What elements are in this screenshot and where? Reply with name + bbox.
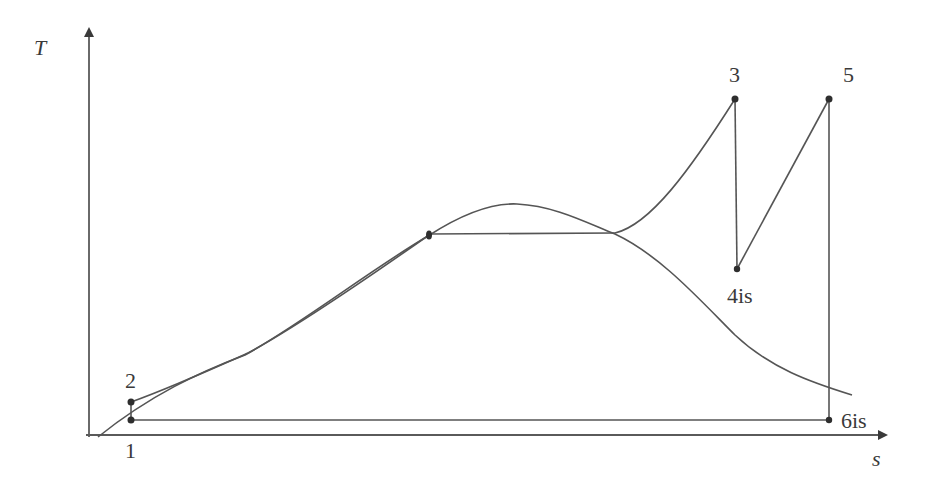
point-3	[732, 96, 739, 103]
point-4is	[734, 266, 740, 272]
process-evaporation	[429, 233, 615, 234]
label-point-1: 1	[125, 438, 136, 463]
label-point-6is: 6is	[841, 408, 867, 433]
point-5	[826, 96, 833, 103]
point-1	[128, 417, 135, 424]
label-point-5: 5	[843, 62, 854, 87]
label-point-4is: 4is	[727, 283, 753, 308]
process-superheat-to-3	[615, 99, 735, 233]
process-2-heating	[131, 235, 429, 402]
label-point-2: 2	[125, 368, 136, 393]
process-4is-5	[737, 99, 829, 269]
y-axis-label: T	[34, 35, 48, 60]
process-3-4is	[735, 99, 737, 269]
point-2	[128, 399, 135, 406]
point-saturated-liquid	[426, 231, 432, 240]
label-point-3: 3	[729, 62, 740, 87]
ts-diagram: T s 1 2 3 4is 5 6is	[0, 0, 932, 491]
x-axis-label: s	[872, 446, 881, 471]
saturation-dome	[98, 204, 852, 437]
point-6is	[826, 417, 832, 423]
